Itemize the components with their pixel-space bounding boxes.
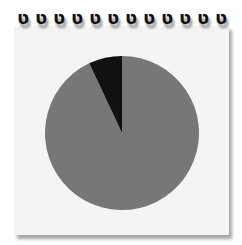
pie-chart (0, 0, 242, 245)
